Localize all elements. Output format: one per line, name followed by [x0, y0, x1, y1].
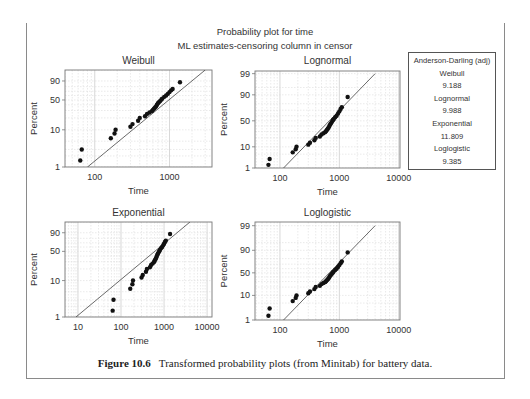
- y-tick-label: 10: [50, 276, 60, 286]
- plot-loglogistic: 110509099100100010000TimePercent: [218, 221, 411, 349]
- figure-caption: Figure 10.6Transformed probability plots…: [0, 357, 530, 369]
- x-axis-label: Time: [317, 186, 338, 197]
- fit-line: [88, 70, 206, 167]
- grid: [255, 222, 400, 320]
- ad-heading: Anderson-Darling (adj): [409, 55, 495, 68]
- grid: [255, 71, 400, 168]
- ad-weibull-name: Weibull: [409, 68, 495, 81]
- x-tick-label: 10000: [195, 322, 220, 332]
- y-axis-label: Percent: [28, 253, 39, 286]
- x-axis-label: Time: [128, 185, 149, 196]
- y-tick-label: 1: [55, 162, 60, 172]
- y-axis-label: Percent: [218, 254, 229, 287]
- caption-label: Figure 10.6: [98, 357, 151, 369]
- plot-frame: [255, 71, 400, 168]
- x-axis-label: Time: [128, 335, 149, 346]
- grid: [65, 222, 212, 317]
- x-tick-label: 1000: [154, 322, 174, 332]
- x-tick-label: 100: [272, 173, 287, 183]
- ad-loglogistic-value: 9.385: [409, 156, 495, 169]
- x-tick-label: 100: [87, 172, 102, 182]
- plot-frame: [65, 222, 212, 317]
- y-tick-label: 99: [240, 221, 250, 231]
- ad-exponential-value: 11.809: [409, 131, 495, 144]
- x-tick-label: 100: [113, 322, 128, 332]
- x-tick-label: 100: [272, 325, 287, 335]
- anderson-darling-box: Anderson-Darling (adj) Weibull 9.188 Log…: [408, 52, 496, 170]
- y-tick-label: 10: [240, 290, 250, 300]
- ad-loglogistic-name: Loglogistic: [409, 143, 495, 156]
- y-axis-label: Percent: [218, 103, 229, 136]
- y-tick-label: 90: [240, 90, 250, 100]
- x-tick-label: 1000: [329, 325, 349, 335]
- plot-frame: [255, 222, 400, 320]
- data-points: [266, 250, 350, 318]
- ad-lognormal-name: Lognormal: [409, 93, 495, 106]
- x-tick-label: 1000: [160, 172, 180, 182]
- caption-text: Transformed probability plots (from Mini…: [159, 357, 432, 369]
- y-tick-label: 10: [50, 125, 60, 135]
- data-points: [78, 80, 182, 163]
- y-axis-label: Percent: [28, 102, 39, 135]
- y-tick-label: 1: [245, 315, 250, 325]
- plot-lognormal: 110509099100100010000TimePercent: [218, 69, 411, 197]
- y-tick-label: 1: [245, 163, 250, 173]
- y-tick-label: 90: [50, 228, 60, 238]
- y-tick-label: 1: [55, 312, 60, 322]
- y-tick-label: 50: [50, 95, 60, 105]
- x-tick-label: 10000: [386, 325, 411, 335]
- x-tick-label: 10: [73, 322, 83, 332]
- ad-exponential-name: Exponential: [409, 118, 495, 131]
- y-tick-label: 50: [240, 116, 250, 126]
- y-tick-label: 50: [240, 268, 250, 278]
- y-tick-label: 10: [240, 142, 250, 152]
- x-axis-label: Time: [317, 338, 338, 349]
- ad-weibull-value: 9.188: [409, 80, 495, 93]
- x-tick-label: 10000: [386, 173, 411, 183]
- ad-lognormal-value: 9.988: [409, 105, 495, 118]
- plot-exponential: 110509010100100010000TimePercent: [28, 222, 220, 346]
- y-tick-label: 90: [240, 245, 250, 255]
- y-tick-label: 90: [50, 76, 60, 86]
- plot-weibull: 11050901001000TimePercent: [28, 70, 212, 196]
- x-tick-label: 1000: [329, 173, 349, 183]
- fit-line: [76, 222, 190, 317]
- y-tick-label: 99: [240, 69, 250, 79]
- y-tick-label: 50: [50, 246, 60, 256]
